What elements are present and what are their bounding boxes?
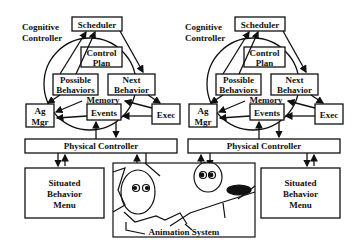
events-label: Events xyxy=(254,108,281,118)
menu-line2: Behavior xyxy=(283,189,318,199)
next-label: Next xyxy=(123,75,141,85)
controller-label: Controller xyxy=(22,33,62,43)
memory-label: Memory xyxy=(250,95,283,105)
menu-line3: Menu xyxy=(289,200,312,210)
next-label: Next xyxy=(286,75,304,85)
physical-controller-label: Physical Controller xyxy=(227,141,302,151)
controller-label: Controller xyxy=(185,33,225,43)
animation-system-label: Animation System xyxy=(149,227,220,237)
behaviors-label: Behaviors xyxy=(219,85,258,95)
menu-line3: Menu xyxy=(53,200,76,210)
mgr-label: Mgr xyxy=(32,117,49,127)
animation-box xyxy=(113,163,255,237)
menu-line1: Situated xyxy=(284,178,316,188)
mgr-label: Mgr xyxy=(195,117,212,127)
memory-label: Memory xyxy=(87,95,120,105)
behavior-label: Behavior xyxy=(277,85,312,95)
behavior-label: Behavior xyxy=(114,85,149,95)
exec-label: Exec xyxy=(157,110,176,120)
plan-label: Plan xyxy=(93,58,111,68)
ag-label: Ag xyxy=(35,106,46,116)
menu-line2: Behavior xyxy=(47,189,82,199)
behaviors-label: Behaviors xyxy=(56,85,95,95)
disc-object xyxy=(227,185,251,195)
events-label: Events xyxy=(91,108,118,118)
control-label: Control xyxy=(87,48,117,58)
animation-system xyxy=(113,162,255,237)
cognitive-label: Cognitive xyxy=(185,22,222,32)
exec-label: Exec xyxy=(320,110,339,120)
scheduler-label: Scheduler xyxy=(241,20,280,30)
possible-label: Possible xyxy=(223,75,254,85)
ag-label: Ag xyxy=(198,106,209,116)
menu-line1: Situated xyxy=(48,178,80,188)
cognitive-label: Cognitive xyxy=(22,22,59,32)
scheduler-label: Scheduler xyxy=(78,20,117,30)
physical-controller-label: Physical Controller xyxy=(64,141,139,151)
possible-label: Possible xyxy=(60,75,91,85)
architecture-diagram: Cognitive Controller Scheduler Control P… xyxy=(0,0,359,251)
plan-label: Plan xyxy=(256,58,274,68)
control-label: Control xyxy=(250,48,280,58)
